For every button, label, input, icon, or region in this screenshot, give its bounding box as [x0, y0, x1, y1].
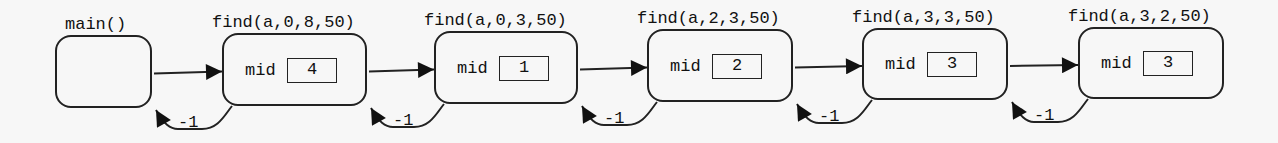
call-arrow — [1010, 65, 1078, 66]
return-value-label: -1 — [178, 114, 198, 131]
stack-frame-main — [55, 35, 152, 108]
variable-value-box: 3 — [927, 52, 977, 77]
variable-label: mid — [670, 58, 701, 75]
frame-title: find(a,0,8,50) — [212, 14, 355, 31]
variable-label: mid — [1101, 55, 1132, 72]
frame-title: find(a,2,3,50) — [637, 10, 780, 27]
variable-value-box: 2 — [712, 54, 762, 79]
variable-label: mid — [457, 60, 488, 77]
variable-label: mid — [245, 62, 276, 79]
call-arrow — [795, 66, 862, 68]
variable-value-box: 4 — [287, 58, 337, 83]
return-value-label: -1 — [604, 110, 624, 127]
return-value-label: -1 — [1034, 107, 1054, 124]
variable-value-box: 3 — [1143, 51, 1193, 76]
call-arrow — [154, 72, 222, 74]
call-arrow — [580, 68, 647, 70]
frame-title: main() — [65, 16, 126, 33]
frame-title: find(a,3,2,50) — [1068, 8, 1211, 25]
return-value-label: -1 — [819, 108, 839, 125]
call-arrow — [369, 70, 434, 72]
frame-title: find(a,3,3,50) — [852, 9, 995, 26]
variable-label: mid — [885, 56, 916, 73]
frame-title: find(a,0,3,50) — [424, 12, 567, 29]
return-value-label: -1 — [393, 112, 413, 129]
variable-value-box: 1 — [499, 56, 549, 81]
